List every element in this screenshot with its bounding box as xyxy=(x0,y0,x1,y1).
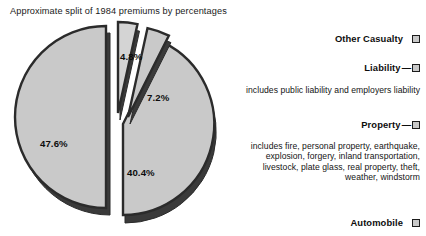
legend-note-property: includes fire, personal property, earthq… xyxy=(228,141,420,183)
chart-legend: Other Casualty Liability — includes publ… xyxy=(228,0,426,236)
legend-label-liability: Liability xyxy=(364,62,400,73)
pie-chart-figure: Approximate split of 1984 premiums by pe… xyxy=(0,0,426,236)
legend-label-automobile: Automobile xyxy=(350,217,403,228)
legend-note-liability: includes public liability and employers … xyxy=(234,85,420,95)
square-marker-icon xyxy=(412,64,420,72)
pie-slice-property[interactable] xyxy=(123,43,216,223)
legend-label-other-casualty: Other Casualty xyxy=(335,33,403,44)
legend-item-other-casualty[interactable]: Other Casualty xyxy=(335,33,420,44)
legend-item-automobile[interactable]: Automobile xyxy=(350,217,420,228)
legend-item-property[interactable]: Property — xyxy=(361,119,420,130)
square-marker-icon xyxy=(412,121,420,129)
pie-slice-label-liability: 7.2% xyxy=(147,92,169,103)
legend-dash-icon: — xyxy=(401,62,412,73)
pie-slice-label-automobile: 47.6% xyxy=(40,138,68,149)
pie-slice-label-property: 40.4% xyxy=(127,167,155,178)
legend-dash-icon: — xyxy=(401,119,412,130)
legend-spacer xyxy=(403,38,412,39)
pie-slice-automobile[interactable] xyxy=(15,26,110,215)
pie-chart-svg xyxy=(0,18,226,236)
square-marker-icon xyxy=(412,35,420,43)
pie-slice-property-face xyxy=(123,43,214,215)
legend-item-liability[interactable]: Liability — xyxy=(364,62,420,73)
pie-slice-automobile-face xyxy=(15,26,106,208)
pie-chart-canvas: 47.6% 4.8% 7.2% 40.4% xyxy=(0,18,226,236)
pie-slice-label-other-casualty: 4.8% xyxy=(120,51,142,62)
legend-spacer xyxy=(403,222,412,223)
legend-label-property: Property xyxy=(361,119,400,130)
square-marker-icon xyxy=(412,219,420,227)
chart-title: Approximate split of 1984 premiums by pe… xyxy=(10,6,230,18)
